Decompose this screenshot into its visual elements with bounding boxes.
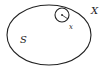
label-s: S [20,34,27,45]
label-x-point: x [69,23,73,31]
label-x-space: X [90,5,99,16]
radius-line [62,15,68,19]
diagram-canvas: S X x [0,0,105,70]
